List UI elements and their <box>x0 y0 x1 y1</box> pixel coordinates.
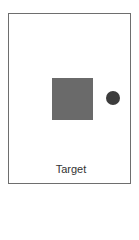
target-label: Target <box>40 163 102 176</box>
target-circle <box>106 91 120 105</box>
target-square <box>52 78 93 120</box>
